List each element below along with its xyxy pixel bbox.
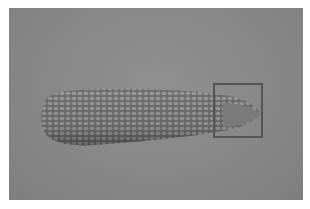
bounding-box: [213, 83, 263, 138]
photo: [9, 8, 303, 200]
